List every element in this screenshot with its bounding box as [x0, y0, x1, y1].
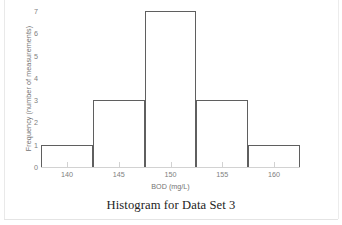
y-axis-tick-labels: 01234567: [24, 0, 38, 225]
y-tick-label: 6: [24, 29, 38, 38]
y-tick-label: 4: [24, 73, 38, 82]
y-tick-label: 3: [24, 96, 38, 105]
histogram-bar: [145, 11, 197, 167]
y-tick-label: 5: [24, 51, 38, 60]
y-tick-label: 0: [24, 163, 38, 172]
histogram-chart: Frequency (number of measurements) 01234…: [0, 0, 342, 225]
x-tick-label: 150: [153, 170, 189, 179]
plot-area: [41, 11, 300, 167]
histogram-bar: [93, 100, 145, 167]
x-axis-tick-labels: 140145150155160: [41, 170, 300, 182]
x-axis-line: [41, 167, 300, 168]
x-tick-label: 140: [49, 170, 85, 179]
histogram-bar: [196, 100, 248, 167]
x-axis-title: BOD (mg/L): [41, 182, 300, 191]
y-tick-label: 2: [24, 118, 38, 127]
x-tick-label: 160: [256, 170, 292, 179]
page-canvas: Frequency (number of measurements) 01234…: [0, 0, 342, 225]
x-tick-label: 145: [101, 170, 137, 179]
chart-title: Histogram for Data Set 3: [0, 198, 342, 213]
y-tick-label: 7: [24, 7, 38, 16]
y-tick-label: 1: [24, 140, 38, 149]
x-tick-label: 155: [204, 170, 240, 179]
